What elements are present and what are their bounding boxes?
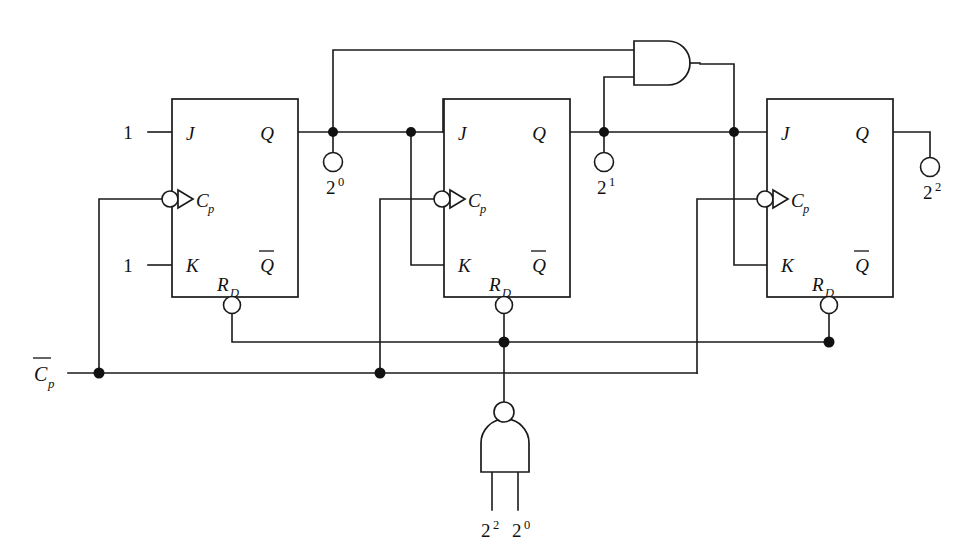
nand-input-0-exponent: 2 xyxy=(493,518,499,532)
clock-bus-label: C p xyxy=(33,358,55,391)
output-terminal-2e2[interactable] xyxy=(921,158,940,177)
ff0-pin-qbar: Q xyxy=(260,255,274,276)
ff2-pin-k: K xyxy=(780,255,795,276)
ff2-clock-wires xyxy=(697,199,758,373)
ff2-pin-reset: R xyxy=(811,274,824,295)
ff0-j-input-value: 1 xyxy=(123,122,133,143)
nand-input-wires xyxy=(492,472,518,510)
circuit-svg: J K C p Q Q R D J K C p Q Q R D J K C p … xyxy=(0,0,968,555)
ff0-pin-reset-sub: D xyxy=(229,286,239,300)
junction-q1-tap xyxy=(599,127,609,137)
ff1-pin-reset-sub: D xyxy=(501,286,511,300)
junction-q0-tap xyxy=(328,127,338,137)
ff0-pin-q: Q xyxy=(260,123,274,144)
circuit-diagram: J K C p Q Q R D J K C p Q Q R D J K C p … xyxy=(0,0,968,555)
ff1-clock-wires xyxy=(380,199,435,373)
output-2e1-base: 2 xyxy=(597,177,607,198)
ff1-pin-q: Q xyxy=(532,123,546,144)
ff1-pin-reset: R xyxy=(488,274,501,295)
flipflop-1[interactable] xyxy=(434,99,570,314)
nand-input-1-base: 2 xyxy=(512,520,522,541)
ff1-pin-qbar: Q xyxy=(532,255,546,276)
output-terminal-2e0[interactable] xyxy=(324,153,343,172)
ff0-input-wires xyxy=(99,132,172,373)
and-gate[interactable] xyxy=(634,41,700,85)
ff0-pin-clock-sub: p xyxy=(207,202,214,216)
output-2e0-base: 2 xyxy=(326,177,336,198)
reset-bus-wires xyxy=(232,313,829,402)
ff0-pin-k: K xyxy=(185,255,200,276)
nand-input-label-right: 2 0 xyxy=(512,518,530,541)
output-label-2e2: 2 2 xyxy=(923,180,941,203)
junction-q0-to-k1 xyxy=(406,127,416,137)
output-label-2e0: 2 0 xyxy=(326,175,344,198)
output-2e0-exponent: 0 xyxy=(338,175,344,189)
ff1-clock-bubble xyxy=(434,191,450,207)
ff1-pin-clock-sub: p xyxy=(479,202,486,216)
ff2-pin-clock-sub: p xyxy=(802,202,809,216)
clock-bus-base: C xyxy=(34,363,48,385)
flipflop-0[interactable] xyxy=(162,99,298,314)
output-2e2-base: 2 xyxy=(923,182,933,203)
ff0-clock-bubble xyxy=(162,191,178,207)
nand-input-0-base: 2 xyxy=(481,520,491,541)
output-2e1-exponent: 1 xyxy=(609,175,615,189)
nand-gate[interactable] xyxy=(481,402,529,472)
junction-reset-bus xyxy=(499,337,510,348)
output-2e2-exponent: 2 xyxy=(935,180,941,194)
clock-bus-sub: p xyxy=(47,376,55,391)
ff2-clock-bubble xyxy=(757,191,773,207)
nand-output-bubble xyxy=(494,402,514,422)
junction-and-out xyxy=(729,127,739,137)
ff2-output-wires xyxy=(893,132,930,158)
ff2-pin-q: Q xyxy=(855,123,869,144)
junction-reset-ff2 xyxy=(824,337,835,348)
junction-clock-ff0 xyxy=(94,368,105,379)
ff2-pin-reset-sub: D xyxy=(824,286,834,300)
ff2-pin-qbar: Q xyxy=(855,255,869,276)
output-label-2e1: 2 1 xyxy=(597,175,615,198)
ff0-k-input-value: 1 xyxy=(123,255,133,276)
nand-input-label-left: 2 2 xyxy=(481,518,499,541)
flipflop-2[interactable] xyxy=(757,99,893,314)
ff1-pin-k: K xyxy=(457,255,472,276)
ff0-pin-reset: R xyxy=(216,274,229,295)
junction-clock-ff1 xyxy=(375,368,386,379)
output-terminal-2e1[interactable] xyxy=(595,153,614,172)
nand-input-1-exponent: 0 xyxy=(524,518,530,532)
